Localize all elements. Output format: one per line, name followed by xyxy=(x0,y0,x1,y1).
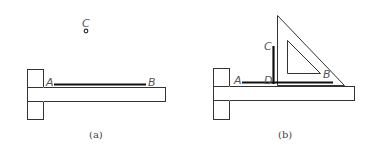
label-c-b: C xyxy=(264,40,272,53)
label-c-a: C xyxy=(82,17,90,30)
tsquare-blade-a xyxy=(28,88,166,102)
figure-b: A D C B (b) xyxy=(214,16,355,141)
figure-a: A B C (a) xyxy=(28,17,166,140)
label-b-b: B xyxy=(323,68,331,81)
caption-b: (b) xyxy=(278,129,292,140)
label-a-a: A xyxy=(45,76,54,89)
set-square-inner xyxy=(288,41,321,74)
label-b-a: B xyxy=(148,76,156,89)
diagram-canvas: A B C (a) A D C B (b) xyxy=(0,0,378,151)
label-a-b: A xyxy=(233,74,242,87)
tsquare-blade-b xyxy=(214,87,355,101)
caption-a: (a) xyxy=(89,129,103,140)
label-d-b: D xyxy=(264,74,272,87)
